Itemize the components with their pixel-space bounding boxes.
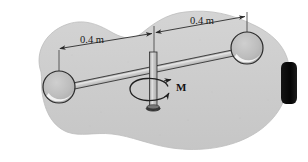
moment-label: M xyxy=(176,81,187,93)
physics-figure: 0.4 m 0.4 m xyxy=(0,0,308,162)
ground-region-blob xyxy=(39,11,289,149)
sphere-left xyxy=(43,71,75,103)
dimension-left-label: 0.4 m xyxy=(80,34,104,45)
dimension-right-label: 0.4 m xyxy=(190,15,214,26)
black-block xyxy=(281,62,297,104)
sphere-right xyxy=(231,32,263,64)
figure-canvas: 0.4 m 0.4 m xyxy=(0,0,308,162)
